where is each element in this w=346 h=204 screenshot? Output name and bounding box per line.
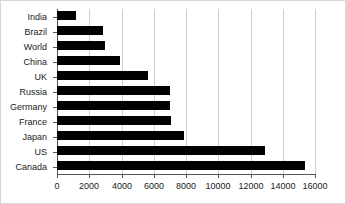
bar <box>57 71 148 80</box>
x-axis-tick <box>89 174 90 178</box>
x-axis-tick <box>251 174 252 178</box>
bar-item <box>57 69 315 84</box>
y-axis-tick-label: France <box>19 117 47 127</box>
y-axis-tick-label: China <box>23 57 47 67</box>
x-axis-tick-label: 4000 <box>112 181 132 191</box>
y-axis-tick-label: Germany <box>10 102 47 112</box>
x-axis-tick <box>218 174 219 178</box>
gridline <box>315 9 316 174</box>
bar-item <box>57 99 315 114</box>
bar-item <box>57 54 315 69</box>
bar-item <box>57 144 315 159</box>
x-axis-tick-label: 10000 <box>205 181 230 191</box>
x-axis-tick-label: 6000 <box>144 181 164 191</box>
x-axis-tick-label: 12000 <box>238 181 263 191</box>
chart-figure: IndiaBrazilWorldChinaUKRussiaGermanyFran… <box>0 0 346 204</box>
x-axis-tick-label: 16000 <box>302 181 327 191</box>
x-axis-tick-label: 0 <box>54 181 59 191</box>
bar-item <box>57 24 315 39</box>
y-axis-tick-label: UK <box>34 72 47 82</box>
x-axis-tick <box>283 174 284 178</box>
bar <box>57 41 105 50</box>
bar <box>57 56 120 65</box>
bar <box>57 131 184 140</box>
x-axis-tick-label: 2000 <box>79 181 99 191</box>
y-axis-tick-label: Russia <box>19 87 47 97</box>
bar-item <box>57 84 315 99</box>
y-axis-tick-label: Canada <box>15 162 47 172</box>
y-axis-tick-label: US <box>34 147 47 157</box>
bar <box>57 161 305 170</box>
x-axis-tick <box>315 174 316 178</box>
y-axis-tick-label: Brazil <box>24 27 47 37</box>
bar <box>57 26 103 35</box>
y-axis-tick-label: World <box>24 42 47 52</box>
x-axis-tick <box>122 174 123 178</box>
bar <box>57 116 171 125</box>
y-axis-tick-label: India <box>27 12 47 22</box>
bar-item <box>57 114 315 129</box>
bar <box>57 101 170 110</box>
bar <box>57 86 170 95</box>
bar-item <box>57 9 315 24</box>
x-axis-tick-label: 8000 <box>176 181 196 191</box>
x-axis-tick <box>57 174 58 178</box>
x-axis-tick-label: 14000 <box>270 181 295 191</box>
bar-item <box>57 39 315 54</box>
x-axis-tick <box>154 174 155 178</box>
bar <box>57 11 76 20</box>
bar-item <box>57 129 315 144</box>
y-axis-tick-label: Japan <box>22 132 47 142</box>
x-axis-tick <box>186 174 187 178</box>
bar-item <box>57 159 315 174</box>
bar <box>57 146 265 155</box>
